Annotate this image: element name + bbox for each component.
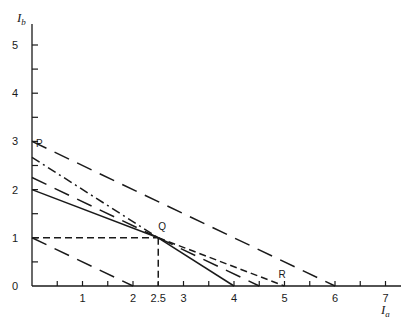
x-tick-label: 5 xyxy=(281,292,287,304)
series-group xyxy=(32,141,335,286)
x-tick-label: 6 xyxy=(332,292,338,304)
x-tick-label: 4 xyxy=(231,292,237,304)
line-mid-left xyxy=(32,178,158,238)
axes xyxy=(32,24,401,286)
y-tick-label: 4 xyxy=(12,87,18,99)
line-mid-right xyxy=(158,238,259,286)
annotations: PQR xyxy=(36,138,286,280)
y-tick-label: 5 xyxy=(12,39,18,51)
point-label-q: Q xyxy=(158,221,166,232)
line-R-left xyxy=(32,190,158,238)
ticks xyxy=(32,45,386,286)
x-axis-label: Ia xyxy=(380,302,390,319)
y-axis-label: Ib xyxy=(16,10,26,27)
y-tick-label: 1 xyxy=(12,232,18,244)
x-tick-label: 3 xyxy=(180,292,186,304)
chart: 122.534567012345 PQR Ia Ib xyxy=(0,0,415,334)
y-axis-label-sub: b xyxy=(21,17,26,27)
point-label-p: P xyxy=(36,138,43,149)
y-tick-label: 3 xyxy=(12,135,18,147)
x-tick-label: 2.5 xyxy=(151,292,166,304)
y-tick-label: 0 xyxy=(12,280,18,292)
point-label-r: R xyxy=(279,269,286,280)
x-axis-label-sub: a xyxy=(385,309,390,319)
y-tick-label: 2 xyxy=(12,184,18,196)
outer-budget-line xyxy=(32,141,335,286)
inner-budget-line xyxy=(32,238,133,286)
x-tick-label: 2 xyxy=(130,292,136,304)
x-tick-label: 1 xyxy=(79,292,85,304)
